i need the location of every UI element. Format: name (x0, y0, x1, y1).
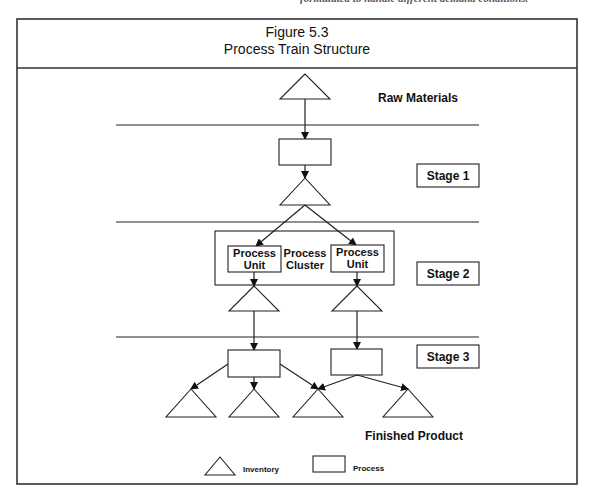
stage1-label: Stage 1 (427, 169, 470, 183)
legend-inventory-label: Inventory (243, 465, 280, 474)
process-unit-right-line1: Process (336, 246, 379, 258)
finished-product-label: Finished Product (365, 429, 463, 443)
stage3-process-left-box (228, 350, 280, 377)
stage2-label: Stage 2 (427, 267, 470, 281)
process-cluster-line2: Cluster (286, 259, 325, 271)
process-train-diagram: Figure 5.3 Process Train Structure Raw M… (0, 0, 589, 495)
raw-materials-label: Raw Materials (378, 91, 458, 105)
arrow-stage3-right-to-fp4 (357, 375, 408, 389)
arrow-stage3-left-to-fp3 (280, 364, 318, 389)
stage1-process-box (279, 139, 331, 165)
legend-inventory-icon (205, 457, 235, 475)
figure-number: Figure 5.3 (265, 24, 328, 40)
stage1-inventory-icon (280, 178, 330, 205)
arrow-stage3-right-to-fp3 (318, 375, 357, 389)
stage2-inventory-left-icon (229, 286, 279, 311)
finished-inventory-3-icon (293, 389, 343, 417)
process-unit-right-line2: Unit (347, 258, 369, 270)
legend-process-label: Process (353, 464, 385, 473)
finished-inventory-4-icon (383, 389, 433, 417)
process-cluster-line1: Process (284, 247, 327, 259)
arrow-stage3-left-to-fp1 (191, 364, 228, 389)
stage2-inventory-right-icon (332, 286, 382, 311)
figure-title: Process Train Structure (224, 41, 370, 57)
process-unit-left-line2: Unit (244, 259, 266, 271)
legend-process-icon (313, 456, 345, 472)
stage3-label: Stage 3 (427, 350, 470, 364)
stage3-process-right-box (331, 349, 382, 375)
finished-inventory-2-icon (229, 389, 279, 417)
process-unit-left-line1: Process (233, 247, 276, 259)
raw-materials-inventory-icon (280, 74, 330, 99)
finished-inventory-1-icon (166, 389, 216, 417)
